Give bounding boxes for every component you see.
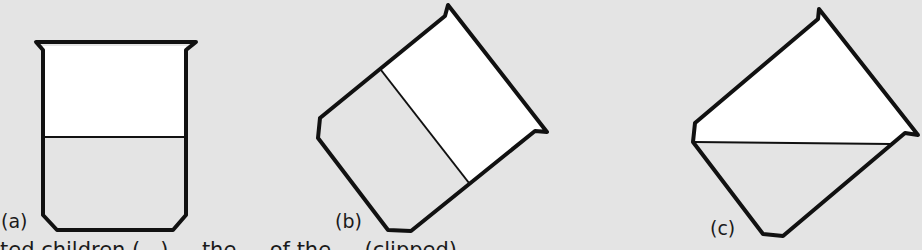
panel-c-label: (c) [710, 219, 735, 238]
beaker-a-air-region [43, 46, 186, 137]
caption-clipped: ted children (...) ... the ... of the ..… [0, 237, 922, 250]
panel-a-label: (a) [1, 212, 27, 231]
panel-a-upright-beaker [36, 42, 196, 230]
panel-c-tilted-beaker-correct [693, 9, 918, 236]
panel-b-label: (b) [335, 212, 362, 231]
caption-text: ted children (...) ... the ... of the ..… [0, 240, 922, 250]
beaker-tilt-diagram [0, 0, 922, 250]
panel-b-tilted-beaker-incorrect [318, 5, 547, 231]
